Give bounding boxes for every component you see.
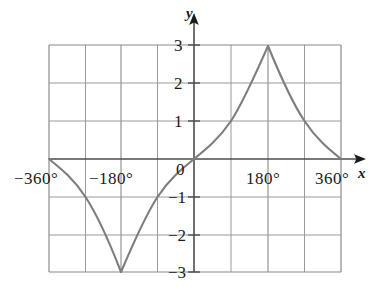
y-axis-name-label: y	[186, 6, 193, 21]
x-tick-label-neg360: −360°	[14, 170, 58, 187]
y-tick-label-neg3: −3	[168, 264, 186, 281]
x-tick-label-pos180: 180°	[246, 170, 280, 187]
y-tick-label-0: 0	[176, 161, 185, 178]
y-tick-label-3: 3	[174, 37, 183, 54]
y-tick-label-neg1: −1	[168, 189, 186, 206]
trig-graph-figure	[0, 0, 379, 289]
x-tick-label-neg180: −180°	[89, 170, 133, 187]
y-axis	[189, 13, 199, 272]
y-tick-label-1: 1	[174, 113, 183, 130]
y-tick-label-2: 2	[174, 75, 183, 92]
y-tick-label-neg2: −2	[168, 227, 186, 244]
x-axis-name-label: x	[358, 166, 366, 181]
x-axis	[49, 154, 366, 164]
x-tick-label-pos360: 360°	[315, 170, 349, 187]
